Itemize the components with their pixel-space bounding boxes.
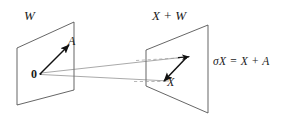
vector-x-base-point [185, 57, 187, 59]
vector-a-label: A [68, 35, 75, 47]
connector-ray-upper [41, 57, 190, 74]
sigma-equation-label: σX = X + A [213, 56, 270, 68]
plane-w [17, 22, 74, 105]
sigma-x-arrowhead [178, 57, 189, 58]
plane-x-plus-w [146, 25, 208, 113]
origin-label: 0 [31, 68, 37, 80]
plane-x-plus-w-outline [146, 25, 208, 113]
vector-a-shaft [40, 45, 69, 74]
vector-x-label: X [167, 76, 174, 88]
affine-diagram-figure: W X + W A 0 X σX = X + A [0, 0, 286, 130]
connector-ray-lower [41, 75, 169, 82]
vector-a [40, 45, 69, 74]
origin-point [39, 73, 41, 75]
sigma-x-arrow-stub [178, 57, 189, 58]
plane-w-outline [17, 22, 74, 105]
plane-x-plus-w-label: X + W [152, 9, 186, 22]
plane-w-label: W [24, 9, 35, 22]
dashed-guides [134, 58, 186, 82]
